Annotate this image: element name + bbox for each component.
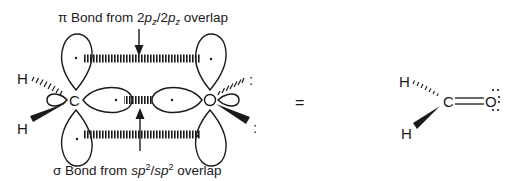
pi-overlap-top	[84, 55, 200, 63]
svg-text:σ Bond from sp2/sp2 overlap: σ Bond from sp2/sp2 overlap	[53, 162, 221, 178]
orbital-oxygen-atom-ring	[205, 95, 216, 106]
hashed-bond-ch-top	[32, 77, 62, 95]
hashed-bond-top	[413, 81, 438, 97]
equals-sign: =	[295, 94, 304, 111]
hashed-bond-o-lonepair-top	[218, 78, 244, 95]
pi-overlap-bottom	[84, 131, 200, 139]
sigma-overlap	[124, 96, 152, 104]
orbital-lone-pair-top: :	[249, 71, 253, 88]
sigma-arrow	[136, 108, 145, 151]
wedge-bond-bottom	[413, 106, 440, 129]
orbital-hydrogen-top: H	[17, 70, 28, 87]
svg-text:π Bond from 2pz/2pz overlap: π Bond from 2pz/2pz overlap	[58, 10, 228, 27]
formaldehyde-bonding-diagram: π Bond from 2pz/2pz overlap	[0, 0, 522, 181]
formaldehyde-oxygen: O	[485, 93, 497, 110]
formaldehyde-carbon: C	[443, 93, 454, 110]
orbital-lone-pair-bottom: :	[253, 119, 257, 136]
pi-bond-label: π Bond from 2pz/2pz overlap	[58, 10, 228, 27]
wedge-bond-ch-bottom	[30, 103, 66, 122]
sigma-bond-label: σ Bond from sp2/sp2 overlap	[53, 162, 221, 178]
wedge-bond-o-lonepair-bottom	[216, 104, 250, 124]
orbital-carbon-atom: C	[69, 92, 80, 109]
oxygen-p-orbital	[196, 34, 226, 166]
pi-arrow	[135, 29, 144, 56]
carbon-sp2-orbitals	[47, 88, 132, 113]
orbital-hydrogen-bottom: H	[17, 120, 28, 137]
formaldehyde-structure: H C O H	[399, 73, 500, 142]
formaldehyde-hydrogen-top: H	[399, 73, 410, 90]
formaldehyde-hydrogen-bottom: H	[401, 125, 412, 142]
